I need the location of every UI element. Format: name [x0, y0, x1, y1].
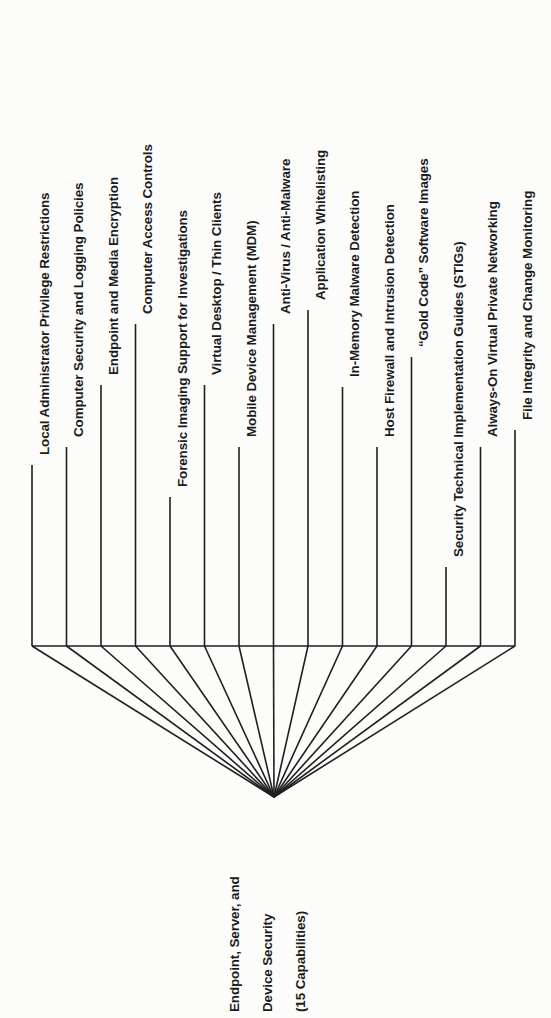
leaf-label-9: Application Whitelisting [314, 150, 327, 300]
leaf-label-12: “Gold Code” Software Images [417, 158, 430, 347]
leaf-label-1: Local Administrator Privilege Restrictio… [38, 193, 51, 455]
fan-ray-4 [136, 646, 275, 797]
root-label-line-3: (15 Capabilities) [294, 911, 307, 1012]
fan-ray-12 [274, 646, 412, 797]
leaf-label-5: Forensic Imaging Support for Investigati… [176, 210, 189, 487]
leaf-label-6: Virtual Desktop / Thin Clients [210, 192, 223, 375]
fan-ray-1 [32, 646, 274, 797]
fan-ray-7 [239, 646, 274, 797]
fan-ray-3 [101, 646, 274, 797]
leaf-label-11: Host Firewall and Intrusion Detection [383, 204, 396, 437]
root-label-line-1: Endpoint, Server, and [228, 876, 241, 1012]
leaf-label-14: Always-On Virtual Private Networking [486, 201, 499, 437]
leaf-label-13: Security Technical Implementation Guides… [452, 241, 465, 557]
fan-ray-15 [274, 646, 515, 797]
fan-ray-5 [170, 646, 274, 797]
connector-lines [0, 0, 551, 1018]
fan-ray-13 [274, 646, 446, 797]
paper-texture [0, 0, 551, 1018]
fan-ray-6 [205, 646, 275, 797]
diagram-canvas: Local Administrator Privilege Restrictio… [0, 0, 551, 1018]
leaf-label-3: Endpoint and Media Encryption [107, 177, 120, 375]
leaf-label-4: Computer Access Controls [141, 144, 154, 314]
fan-ray-9 [274, 646, 308, 797]
leaf-label-10: In-Memory Malware Detection [348, 191, 361, 377]
leaf-label-15: File Integrity and Change Monitoring [521, 191, 534, 420]
fan-ray-10 [274, 646, 343, 797]
leaf-label-8: Anti-Virus / Anti-Malware [279, 159, 292, 314]
leaf-label-2: Computer Security and Logging Policies [72, 183, 85, 437]
fan-ray-2 [67, 646, 275, 797]
root-label-line-2: Device Security [261, 914, 274, 1012]
fan-ray-11 [274, 646, 377, 797]
fan-ray-14 [274, 646, 481, 797]
fan-ray-8 [274, 646, 275, 797]
leaf-label-7: Mobile Device Management (MDM) [245, 221, 258, 438]
